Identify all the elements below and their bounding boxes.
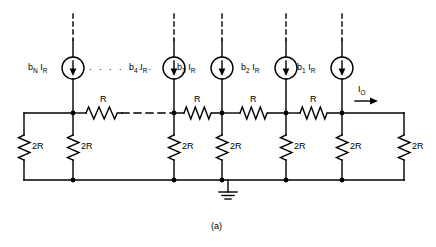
series-resistor-1-zigzag — [86, 107, 122, 119]
shunt-resistor-left-label: 2R — [32, 142, 44, 151]
source-label-bN: bN IR — [28, 63, 47, 72]
circuit-schematic-canvas — [0, 0, 436, 247]
source-label-b3: b3 IR — [177, 63, 195, 72]
source-ellipsis: · · · · · · · — [89, 64, 154, 74]
shunt-resistor-b2-label: 2R — [294, 142, 306, 151]
shunt-resistor-b3-label: 2R — [230, 142, 242, 151]
series-resistor-3-label: R — [250, 95, 257, 104]
source-top-dashed-stub — [73, 14, 342, 40]
figure-caption: (a) — [211, 222, 222, 231]
shunt-resistor-bN-zigzag — [68, 135, 80, 160]
source-label-b1: b1 IR — [297, 63, 315, 72]
shunt-resistor-b2-zigzag — [281, 135, 293, 160]
shunt-resistor-b1-label: 2R — [350, 142, 362, 151]
output-current-label: IO — [358, 85, 366, 94]
source-upper-lead — [73, 40, 342, 57]
output-current-arrow — [355, 98, 378, 105]
shunt-resistor-b4-zigzag — [169, 135, 181, 160]
series-resistor-4-label: R — [310, 95, 317, 104]
shunt-resistor-bN-label: 2R — [81, 142, 93, 151]
series-resistor-1-label: R — [100, 95, 107, 104]
shunt-resistor-left-zigzag — [19, 135, 31, 160]
shunt-resistor-right-label: 2R — [412, 142, 424, 151]
ground-symbol — [219, 180, 237, 199]
circuit-figure: bN IR b4 IR b3 IR b2 IR b1 IR · · · · · … — [0, 0, 436, 247]
series-resistor-2-label: R — [194, 95, 201, 104]
shunt-resistor-b1-zigzag — [337, 135, 349, 160]
shunt-resistor-right-zigzag — [399, 135, 411, 160]
series-resistor-3-zigzag — [240, 107, 286, 119]
shunt-resistor-b4-label: 2R — [182, 142, 194, 151]
series-resistor-4-zigzag — [300, 107, 342, 119]
shunt-resistor-b3-zigzag — [217, 135, 229, 160]
source-label-b2: b2 IR — [241, 63, 259, 72]
series-resistor-2-zigzag — [184, 107, 222, 119]
